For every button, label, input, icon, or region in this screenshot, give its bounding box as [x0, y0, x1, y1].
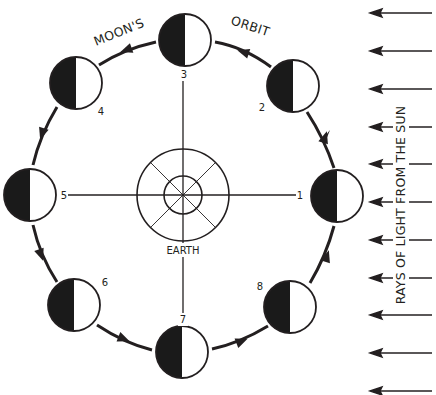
moon-4 — [50, 57, 102, 109]
moon-label-5: 5 — [61, 190, 67, 201]
arrow-left-icon — [370, 311, 382, 319]
arrow-left-icon — [370, 160, 382, 168]
moon-dark-half — [156, 326, 182, 378]
sun-ray — [370, 9, 432, 17]
arrow-left-icon — [370, 236, 382, 244]
moon-label-6: 6 — [102, 277, 108, 288]
moon-dark-half — [267, 60, 293, 112]
moon-3 — [159, 14, 211, 66]
arrow-left-icon — [370, 349, 382, 357]
sun-ray — [370, 311, 432, 319]
moon-label-8: 8 — [257, 281, 263, 292]
orbit-title-right: ORBIT — [229, 13, 272, 40]
sun-ray — [370, 47, 432, 55]
moon-dark-half — [48, 279, 74, 331]
moon-8 — [264, 281, 316, 333]
orbit-title-left: MOON'S — [92, 15, 147, 49]
sun-ray — [370, 85, 432, 93]
moon-label-3: 3 — [181, 69, 187, 80]
arrow-left-icon — [370, 123, 382, 131]
moon-dark-half — [50, 57, 76, 109]
moon-dark-half — [311, 170, 337, 222]
arrow-left-icon — [370, 387, 382, 395]
orbit-arc-8-1 — [310, 226, 334, 283]
moon-1 — [311, 170, 363, 222]
moon-5 — [4, 169, 56, 221]
moon-6 — [48, 279, 100, 331]
sun-rays-label: RAYS OF LIGHT FROM THE SUN — [393, 106, 408, 305]
sun-ray — [370, 349, 432, 357]
orbit-arc-4-5 — [33, 107, 57, 165]
arrow-left-icon — [370, 47, 382, 55]
moon-label-2: 2 — [259, 102, 265, 113]
moon-dark-half — [4, 169, 30, 221]
moon-dark-half — [159, 14, 185, 66]
moon-dark-half — [264, 281, 290, 333]
arrow-left-icon — [370, 274, 382, 282]
moon-7 — [156, 326, 208, 378]
arrow-left-icon — [370, 9, 382, 17]
moon-2 — [267, 60, 319, 112]
sun-ray — [370, 387, 432, 395]
moon-label-7: 7 — [180, 314, 186, 325]
arrow-left-icon — [370, 85, 382, 93]
moon-label-4: 4 — [98, 106, 104, 117]
earth-label: EARTH — [166, 245, 199, 256]
moon-phase-diagram: EARTH MOON'S ORBIT — [0, 0, 436, 395]
arrow-left-icon — [370, 198, 382, 206]
moon-label-1: 1 — [297, 190, 303, 201]
orbit-arc-3-4 — [99, 42, 156, 65]
